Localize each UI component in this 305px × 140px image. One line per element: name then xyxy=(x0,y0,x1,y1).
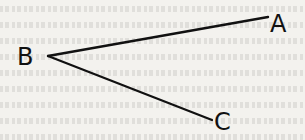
point-label-c: C xyxy=(214,108,231,136)
ray-bc xyxy=(48,56,212,120)
ray-ba xyxy=(48,17,268,56)
point-label-a: A xyxy=(270,10,287,38)
angle-diagram: A B C xyxy=(0,0,305,140)
point-label-b: B xyxy=(17,43,33,71)
